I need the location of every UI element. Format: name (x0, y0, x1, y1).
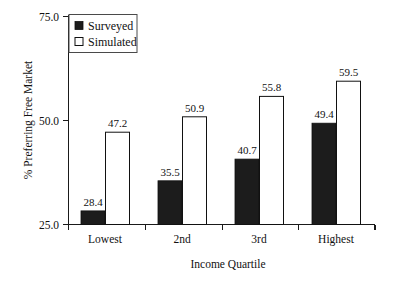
legend-label-simulated: Simulated (88, 35, 137, 49)
x-category-label-2nd: 2nd (173, 233, 191, 245)
x-category-label-3rd: 3rd (251, 233, 267, 245)
bar-simulated-highest[interactable] (337, 81, 361, 224)
bar-value-surveyed-3rd: 40.7 (237, 144, 257, 156)
bar-value-simulated-2nd: 50.9 (185, 102, 205, 114)
chart-canvas: 75.0 50.0 25.0 28.4 47.2 Lowest 35.5 50.… (0, 0, 395, 282)
bar-chart-figure: 75.0 50.0 25.0 28.4 47.2 Lowest 35.5 50.… (0, 0, 395, 282)
bar-value-simulated-lowest: 47.2 (108, 117, 127, 129)
bar-surveyed-lowest[interactable] (81, 211, 105, 225)
y-tick-label-75: 75.0 (39, 11, 59, 23)
y-tick-label-50: 50.0 (39, 115, 59, 127)
x-category-label-highest: Highest (318, 233, 355, 246)
bar-group-3rd: 40.7 55.8 3rd (235, 81, 284, 245)
bar-value-surveyed-highest: 49.4 (314, 108, 334, 120)
bar-simulated-2nd[interactable] (183, 117, 207, 225)
bar-group-highest: 49.4 59.5 Highest (312, 66, 361, 246)
chart-legend: Surveyed Simulated (69, 15, 137, 53)
bar-value-simulated-highest: 59.5 (339, 66, 359, 78)
bar-value-simulated-3rd: 55.8 (262, 81, 282, 93)
bar-simulated-lowest[interactable] (106, 132, 130, 224)
bar-value-surveyed-2nd: 35.5 (160, 166, 180, 178)
x-category-label-lowest: Lowest (88, 233, 123, 245)
bar-value-surveyed-lowest: 28.4 (83, 196, 103, 208)
y-tick-label-25: 25.0 (39, 219, 59, 231)
bar-surveyed-3rd[interactable] (235, 159, 259, 224)
bar-group-2nd: 35.5 50.9 2nd (158, 102, 207, 246)
bar-simulated-3rd[interactable] (260, 96, 284, 224)
y-axis-ticks: 75.0 50.0 25.0 (39, 11, 69, 231)
bar-surveyed-highest[interactable] (312, 123, 336, 224)
x-axis-title: Income Quartile (190, 258, 265, 270)
open-square-icon (75, 38, 83, 46)
bar-group-lowest: 28.4 47.2 Lowest (81, 117, 130, 245)
y-axis-title: % Preferring Free Market (22, 60, 35, 179)
x-axis-ticks (69, 225, 376, 231)
bar-surveyed-2nd[interactable] (158, 181, 182, 225)
legend-label-surveyed: Surveyed (88, 19, 133, 33)
filled-square-icon (75, 22, 83, 30)
